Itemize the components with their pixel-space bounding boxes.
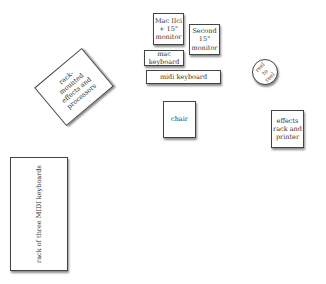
midi-keyboard-label: midi keyboard [160, 73, 207, 81]
mac-monitor-box: Mac IIci + 15" monitor [153, 13, 184, 45]
second-monitor-box: Second 15" monitor [189, 24, 220, 55]
effects-rack-printer-label: effects rack and printer [272, 117, 303, 141]
effects-rack-printer-box: effects rack and printer [271, 110, 304, 148]
rack-effects-box: rack-mounted effects and processors [34, 48, 114, 126]
second-monitor-label: Second 15" monitor [190, 27, 219, 51]
floor-plan-diagram: Mac IIci + 15" monitor Second 15" monito… [0, 0, 326, 284]
mac-keyboard-box: mac keyboard [144, 50, 184, 66]
rack-effects-label: rack-mounted effects and processors [48, 62, 100, 113]
chair-label: chair [171, 115, 188, 123]
mac-monitor-label: Mac IIci + 15" monitor [154, 17, 183, 41]
reel-to-reel-box: reel to reel [252, 59, 278, 85]
midi-rack-label: rack of three MIDI keyboards [35, 165, 43, 263]
midi-rack-box: rack of three MIDI keyboards [10, 157, 68, 271]
reel-to-reel-label: reel to reel [252, 59, 278, 85]
mac-keyboard-label: mac keyboard [145, 50, 183, 66]
chair-box: chair [163, 101, 196, 138]
midi-keyboard-box: midi keyboard [146, 70, 221, 84]
